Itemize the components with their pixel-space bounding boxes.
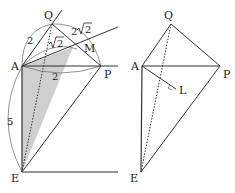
line-EP xyxy=(141,66,220,172)
line-AL xyxy=(142,66,176,89)
label-A: A xyxy=(10,60,20,73)
length-AQ: 2 xyxy=(27,35,33,46)
label-M: M xyxy=(84,42,95,55)
label-E: E xyxy=(11,172,19,185)
line-AE xyxy=(141,66,142,172)
length-QM: 2 2 xyxy=(71,23,92,37)
length-AM: 2 xyxy=(49,37,64,49)
svg-text:2: 2 xyxy=(85,24,91,35)
label-E: E xyxy=(130,172,138,185)
label-Q: Q xyxy=(164,9,173,22)
svg-text:2: 2 xyxy=(71,26,77,37)
svg-text:2: 2 xyxy=(57,38,63,49)
length-AE: 5 xyxy=(7,116,13,127)
right-figure: Q A P L E xyxy=(130,9,231,185)
label-A: A xyxy=(130,60,140,73)
left-figure: Q A P M E 2 2 5 2 2 2 xyxy=(7,9,118,185)
length-AP: 2 xyxy=(52,71,58,82)
geometry-diagram: Q A P M E 2 2 5 2 2 2 Q A P L E xyxy=(0,0,235,193)
label-L: L xyxy=(179,84,187,97)
line-QP xyxy=(171,24,220,66)
label-P: P xyxy=(104,68,112,81)
label-P: P xyxy=(223,68,231,81)
label-Q: Q xyxy=(44,9,53,22)
